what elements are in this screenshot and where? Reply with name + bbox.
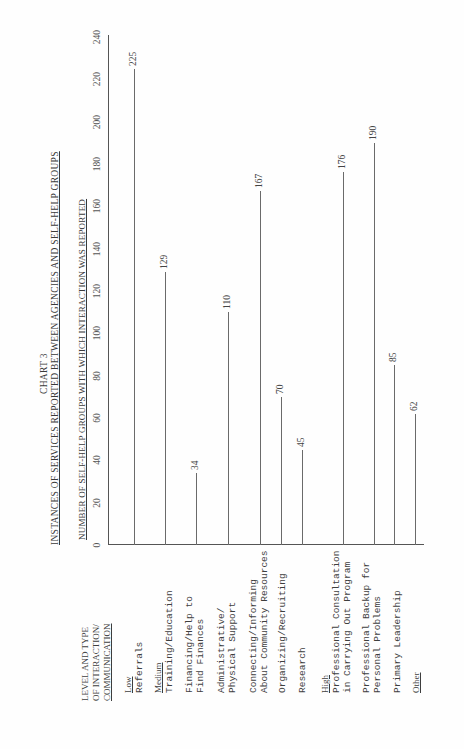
category-label-referrals: Low Referrals <box>123 642 145 693</box>
bar-professional-backup <box>374 143 375 545</box>
tick-label: 200 <box>92 115 102 129</box>
label-line: Find Finances <box>195 596 206 693</box>
label-line: Primary Leadership <box>392 590 403 693</box>
bar-connecting-informing <box>260 191 261 545</box>
category-label-administrative: Administrative/ Physical Support <box>216 602 238 693</box>
label-line: Professional Backup for <box>361 562 372 693</box>
label-line: Referrals <box>134 642 145 693</box>
axis-title: NUMBER OF SELF-HELP GROUPS WITH WHICH IN… <box>77 199 87 540</box>
bar-administrative <box>228 312 229 545</box>
bar-value-label: 62 <box>409 402 419 412</box>
category-label-research: Research <box>297 647 308 693</box>
bar-value-label: 70 <box>275 385 285 395</box>
category-label-organizing: Organizing/Recruiting <box>277 573 288 693</box>
category-axis-header: LEVEL AND TYPE OF INTERACTION/ COMMUNICA… <box>80 623 113 701</box>
tick-label: 80 <box>92 371 102 381</box>
label-line: Financing/Help to <box>184 596 195 693</box>
label-line: Training/Education <box>164 590 175 693</box>
chart-number: CHART 3 <box>39 353 49 394</box>
tick-label: 140 <box>92 242 102 256</box>
tick-label: 60 <box>92 413 102 423</box>
chart-page: CHART 3 INSTANCES OF SERVICES REPORTED B… <box>0 0 464 749</box>
bar-value-label: 45 <box>296 438 306 448</box>
tick-label: 120 <box>92 284 102 298</box>
bar-value-label: 167 <box>254 174 264 188</box>
tick-label: 180 <box>92 157 102 171</box>
label-line: Research <box>297 647 308 693</box>
label-line: in Carrying Out Program <box>342 550 353 693</box>
bar-research <box>302 450 303 545</box>
tick-label: 0 <box>92 543 102 548</box>
bar-professional-consultation <box>343 172 344 545</box>
bar-value-label: 129 <box>159 255 169 269</box>
tick-label: 220 <box>92 72 102 86</box>
category-label-training: Medium Training/Education <box>153 590 175 693</box>
header-line: COMMUNICATION <box>102 623 113 701</box>
chart-title: INSTANCES OF SERVICES REPORTED BETWEEN A… <box>50 151 60 545</box>
label-line: Administrative/ <box>216 602 227 693</box>
bar-value-label: 225 <box>128 52 138 66</box>
bar-organizing-recruiting <box>281 397 282 545</box>
value-axis-line <box>108 35 109 545</box>
category-label-other: Other <box>411 673 422 694</box>
tick-label: 240 <box>92 30 102 44</box>
bar-referrals <box>134 69 135 545</box>
tick-label: 20 <box>92 498 102 508</box>
group-label-other: Other <box>411 673 422 694</box>
group-label-high: High <box>320 550 331 693</box>
label-line: Physical Support <box>227 602 238 693</box>
bar-value-label: 110 <box>222 295 232 309</box>
label-line: Organizing/Recruiting <box>277 573 288 693</box>
category-label-connecting: Connecting/Informing About Community Res… <box>248 550 270 693</box>
tick-label: 160 <box>92 199 102 213</box>
bar-primary-leadership <box>394 365 395 545</box>
bar-other <box>415 414 416 545</box>
tick-label: 100 <box>92 326 102 340</box>
bar-financing <box>196 473 197 545</box>
header-line: LEVEL AND TYPE <box>80 623 91 701</box>
bar-value-label: 190 <box>368 126 378 140</box>
category-label-financing: Financing/Help to Find Finances <box>184 596 206 693</box>
bar-training-education <box>165 272 166 545</box>
label-line: About Community Resources <box>259 550 270 693</box>
label-line: Professional Consultation <box>331 550 342 693</box>
category-label-professional-backup: Professional Backup for Personal Problem… <box>361 562 383 693</box>
label-line: Connecting/Informing <box>248 550 259 693</box>
header-line: OF INTERACTION/ <box>91 623 102 701</box>
label-line: Personal Problems <box>372 562 383 693</box>
group-label-low: Low <box>123 642 134 693</box>
bar-value-label: 176 <box>337 155 347 169</box>
tick-label: 40 <box>92 455 102 465</box>
baseline-axis-line <box>108 544 424 545</box>
bar-value-label: 34 <box>190 461 200 471</box>
bar-value-label: 85 <box>388 353 398 363</box>
category-label-professional-consultation: High Professional Consultation in Carryi… <box>320 550 353 693</box>
category-label-primary-leadership: Primary Leadership <box>392 590 403 693</box>
group-label-medium: Medium <box>153 590 164 693</box>
